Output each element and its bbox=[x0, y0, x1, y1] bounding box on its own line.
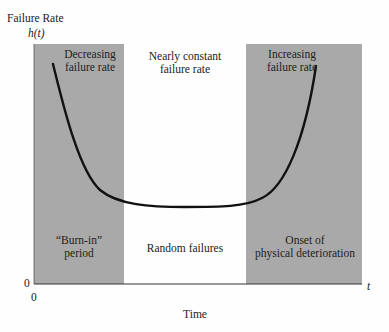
x-zero-label: 0 bbox=[31, 291, 37, 304]
region3-top-line2: failure rate bbox=[252, 61, 332, 74]
region1-top-line1: Decreasing bbox=[50, 48, 130, 61]
x-axis-title: Time bbox=[175, 308, 215, 321]
region2-bottom-line1: Random failures bbox=[130, 242, 240, 255]
region1-bottom-line2: period bbox=[36, 247, 122, 260]
region1-bottom-line1: “Burn-in” bbox=[36, 234, 122, 247]
y-axis-symbol: h(t) bbox=[28, 27, 45, 39]
y-axis-title: Failure Rate bbox=[7, 12, 64, 24]
region3-bottom-line2: physical deterioration bbox=[248, 247, 362, 260]
region1-top-line2: failure rate bbox=[50, 61, 130, 74]
region2-top-line1: Nearly constant bbox=[135, 50, 235, 63]
x-axis-symbol: t bbox=[367, 280, 370, 293]
region3-top-line1: Increasing bbox=[252, 48, 332, 61]
region3-bottom-line1: Onset of bbox=[248, 234, 362, 247]
region2-top-line2: failure rate bbox=[135, 63, 235, 76]
y-zero-label: 0 bbox=[24, 277, 30, 290]
